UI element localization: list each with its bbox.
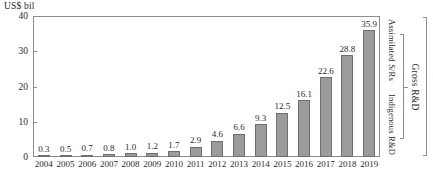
x-axis-tick-label: 2004 xyxy=(33,159,55,169)
x-axis-tick-label: 2007 xyxy=(98,159,120,169)
x-axis-tick-label: 2011 xyxy=(185,159,207,169)
y-axis-tick-label: 20 xyxy=(0,82,33,92)
x-axis-tick-label: 2009 xyxy=(141,159,163,169)
x-axis-tick-label: 2012 xyxy=(207,159,229,169)
outer-bracket xyxy=(423,17,427,156)
y-axis-tick-mark xyxy=(33,51,37,52)
y-axis-tick-mark xyxy=(33,122,37,123)
x-axis-tick-label: 2008 xyxy=(120,159,142,169)
y-axis-tick-label: 40 xyxy=(0,11,33,21)
y-axis-tick-mark xyxy=(33,87,37,88)
x-axis-tick-label: 2018 xyxy=(337,159,359,169)
y-axis-tick-label: 30 xyxy=(0,46,33,56)
x-axis: 2004200520062007200820092010201120122013… xyxy=(33,159,380,169)
category-brackets: Assimilated S/Rs Indigenous R&D Gross R&… xyxy=(383,16,433,157)
x-axis-tick-label: 2010 xyxy=(163,159,185,169)
chart-container: US$ bil 010203040 0.30.50.70.81.01.21.72… xyxy=(0,0,433,183)
y-axis-unit-caption: US$ bil xyxy=(4,1,35,11)
y-axis-tick-label: 10 xyxy=(0,117,33,127)
x-axis-tick-label: 2005 xyxy=(55,159,77,169)
annotation-gross-label: Gross R&D xyxy=(410,63,420,110)
annotation-assimilated-label: Assimilated S/Rs xyxy=(387,19,397,81)
x-axis-tick-label: 2016 xyxy=(293,159,315,169)
inner-bracket-stem xyxy=(404,87,408,88)
x-axis-tick-label: 2013 xyxy=(228,159,250,169)
x-axis-tick-label: 2019 xyxy=(358,159,380,169)
x-axis-tick-label: 2006 xyxy=(76,159,98,169)
y-axis-tick-label: 0 xyxy=(0,152,33,162)
plot-frame xyxy=(33,16,380,157)
y-axis-tick-mark xyxy=(33,16,37,17)
x-axis-tick-label: 2015 xyxy=(272,159,294,169)
x-axis-tick-label: 2017 xyxy=(315,159,337,169)
x-axis-tick-label: 2014 xyxy=(250,159,272,169)
annotation-indigenous-label: Indigenous R&D xyxy=(387,94,397,155)
